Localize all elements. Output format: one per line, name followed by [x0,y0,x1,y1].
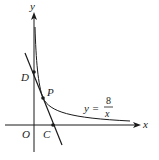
equation-label: y = 8 x [83,95,113,119]
origin-label: O [22,128,30,140]
x-axis-label: x [142,118,148,130]
point-d [32,70,36,74]
point-p-label: P [46,86,54,98]
point-d-label: D [20,71,29,83]
point-p [41,96,45,100]
equation-numerator: 8 [106,95,111,106]
equation-lhs: y = [83,102,99,114]
y-axis-label: y [29,0,35,12]
coordinate-diagram: y x O D P C y = 8 x [0,0,159,160]
equation-denominator: x [104,108,110,119]
point-c-label: C [43,128,51,140]
point-c [51,123,55,127]
hyperbola-curve [35,27,130,121]
